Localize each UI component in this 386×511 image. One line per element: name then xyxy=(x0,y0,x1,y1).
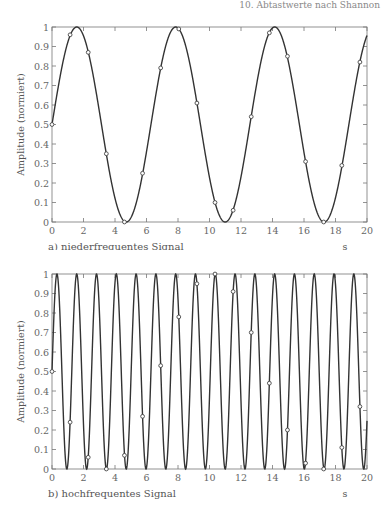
sample-marker xyxy=(50,123,54,127)
chart-b-high-frequency: 0246810121416182000.10.20.30.40.50.60.70… xyxy=(0,250,386,511)
y-tick-label: 0.4 xyxy=(34,139,49,150)
y-axis-title: Amplitude (normiert) xyxy=(15,73,26,177)
sample-marker xyxy=(267,381,271,385)
x-tick-label: 14 xyxy=(266,225,278,236)
sample-marker xyxy=(304,160,308,164)
signal-curve xyxy=(52,27,367,222)
sample-marker xyxy=(123,453,127,457)
y-tick-label: 0.2 xyxy=(34,178,49,189)
x-tick-label: 4 xyxy=(112,472,118,483)
x-tick-label: 2 xyxy=(80,472,86,483)
y-tick-label: 0.7 xyxy=(34,80,49,91)
sample-marker xyxy=(86,455,90,459)
y-tick-label: 0.8 xyxy=(34,61,49,72)
sample-marker xyxy=(68,420,72,424)
sample-marker xyxy=(141,414,145,418)
y-tick-label: 0 xyxy=(43,217,49,228)
x-tick-label: 10 xyxy=(203,472,215,483)
y-tick-label: 0.1 xyxy=(34,444,49,455)
sample-marker xyxy=(68,33,72,37)
sample-marker xyxy=(213,272,217,276)
sample-marker xyxy=(86,50,90,54)
sample-marker xyxy=(322,467,326,471)
sample-marker xyxy=(358,405,362,409)
x-tick-label: 20 xyxy=(361,225,373,236)
y-tick-label: 0.3 xyxy=(34,158,49,169)
x-tick-label: 8 xyxy=(175,472,181,483)
x-tick-label: 8 xyxy=(175,225,181,236)
x-tick-label: 6 xyxy=(143,472,149,483)
x-tick-label: 0 xyxy=(49,225,55,236)
sample-marker xyxy=(267,31,271,35)
plot-frame xyxy=(52,27,367,222)
y-tick-label: 0 xyxy=(43,464,49,475)
y-axis-title: Amplitude (normiert) xyxy=(15,320,26,424)
chart-caption: b) hochfrequentes Signal xyxy=(48,488,176,499)
x-tick-label: 4 xyxy=(112,225,118,236)
sample-marker xyxy=(159,66,163,70)
x-tick-label: 16 xyxy=(298,225,310,236)
y-tick-label: 0.2 xyxy=(34,425,49,436)
x-tick-label: 16 xyxy=(298,472,310,483)
sample-marker xyxy=(177,315,181,319)
sample-marker xyxy=(286,54,290,58)
sample-marker xyxy=(123,220,127,224)
y-tick-label: 0.6 xyxy=(34,347,49,358)
x-tick-label: 10 xyxy=(203,225,215,236)
x-tick-label: 6 xyxy=(143,225,149,236)
sample-marker xyxy=(104,152,108,156)
x-tick-label: 12 xyxy=(235,472,247,483)
y-tick-label: 1 xyxy=(43,22,49,33)
sample-marker xyxy=(104,467,108,471)
signal-curve xyxy=(52,274,367,469)
x-tick-label: 18 xyxy=(329,225,341,236)
y-tick-label: 0.1 xyxy=(34,197,49,208)
sample-marker xyxy=(141,171,145,175)
y-tick-label: 0.9 xyxy=(34,288,49,299)
sample-marker xyxy=(231,290,235,294)
sample-marker xyxy=(50,370,54,374)
x-axis-unit: s xyxy=(343,241,348,250)
sample-marker xyxy=(195,282,199,286)
y-tick-label: 0.9 xyxy=(34,41,49,52)
sample-marker xyxy=(340,164,344,168)
sample-marker xyxy=(322,220,326,224)
sample-marker xyxy=(195,101,199,105)
x-tick-label: 20 xyxy=(361,472,373,483)
y-tick-label: 0.3 xyxy=(34,405,49,416)
x-tick-label: 2 xyxy=(80,225,86,236)
y-tick-label: 1 xyxy=(43,269,49,280)
sample-marker xyxy=(159,364,163,368)
y-tick-label: 0.4 xyxy=(34,386,49,397)
sample-marker xyxy=(304,461,308,465)
sample-marker xyxy=(231,208,235,212)
sample-marker xyxy=(358,60,362,64)
sample-marker xyxy=(286,428,290,432)
x-tick-label: 0 xyxy=(49,472,55,483)
sample-marker xyxy=(249,115,253,119)
y-tick-label: 0.6 xyxy=(34,100,49,111)
x-tick-label: 18 xyxy=(329,472,341,483)
chart-caption: a) niederfrequentes Signal xyxy=(48,241,184,250)
y-tick-label: 0.5 xyxy=(34,119,49,130)
x-tick-label: 12 xyxy=(235,225,247,236)
y-tick-label: 0.7 xyxy=(34,327,49,338)
y-tick-label: 0.8 xyxy=(34,308,49,319)
y-tick-label: 0.5 xyxy=(34,366,49,377)
x-axis-unit: s xyxy=(343,488,348,499)
sample-marker xyxy=(213,201,217,205)
sample-marker xyxy=(177,27,181,31)
sample-marker xyxy=(249,331,253,335)
sample-marker xyxy=(340,446,344,450)
x-tick-label: 14 xyxy=(266,472,278,483)
chart-a-low-frequency: 0246810121416182000.10.20.30.40.50.60.70… xyxy=(0,0,386,250)
